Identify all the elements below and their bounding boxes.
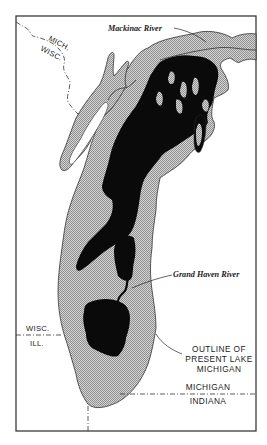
michigan-south-label: MICHIGAN	[186, 382, 231, 392]
outline-label-line2: PRESENT LAKE	[185, 354, 252, 364]
outline-label-line1: OUTLINE OF	[192, 344, 246, 354]
indiana-label: INDIANA	[190, 396, 227, 406]
wisc-south-label: WISC.	[26, 324, 49, 333]
grand-haven-river-label: Grand Haven River	[173, 270, 240, 279]
mackinac-river-label: Mackinac River	[107, 24, 163, 33]
lake-michigan-map: Mackinac River Grand Haven River MICH. W…	[0, 0, 267, 445]
ill-label: ILL.	[30, 339, 44, 348]
outline-label-line3: MICHIGAN	[197, 364, 242, 374]
